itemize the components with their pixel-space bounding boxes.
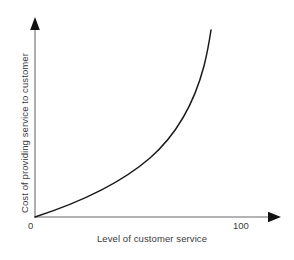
chart-plot-area bbox=[0, 0, 294, 260]
x-axis-arrow-icon bbox=[268, 212, 281, 222]
cost-curve-line bbox=[35, 30, 211, 217]
chart-figure: Cost of providing service to customer Le… bbox=[0, 0, 294, 260]
y-axis-arrow-icon bbox=[30, 17, 40, 30]
x-axis-tick-0: 0 bbox=[28, 221, 33, 231]
x-axis-tick-100: 100 bbox=[233, 221, 249, 231]
x-axis-label: Level of customer service bbox=[62, 234, 242, 244]
y-axis-label: Cost of providing service to customer bbox=[20, 33, 34, 213]
